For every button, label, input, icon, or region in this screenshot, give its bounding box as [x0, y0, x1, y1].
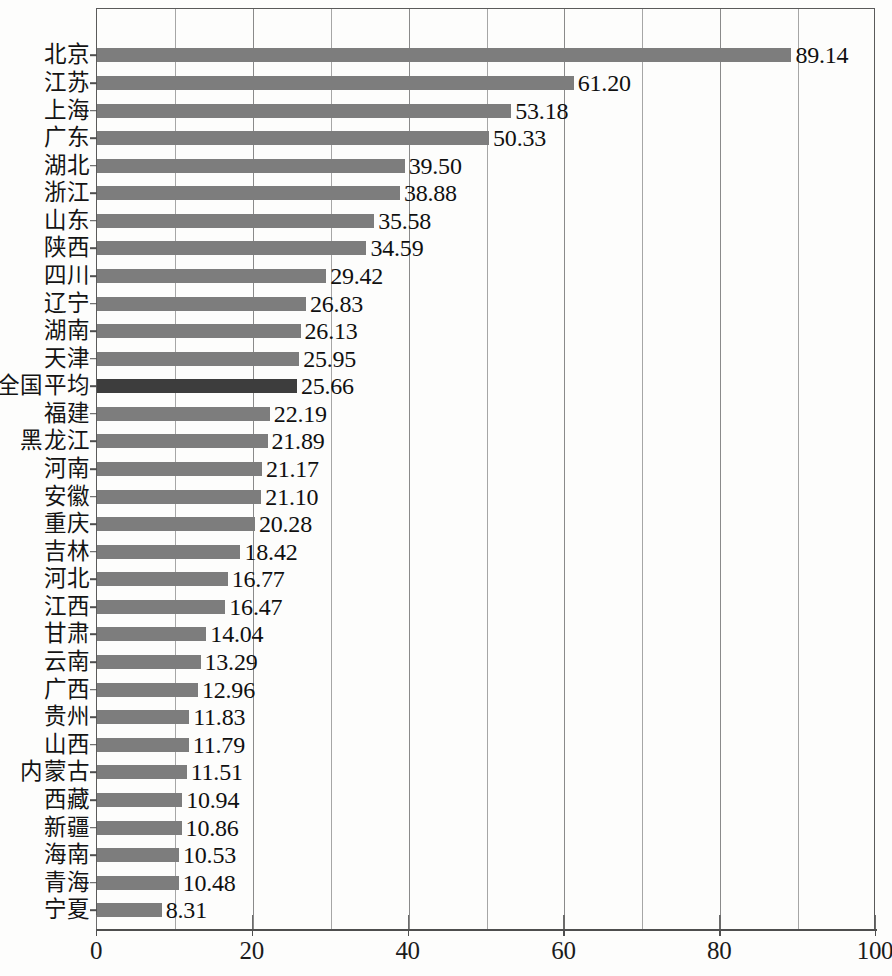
bar[interactable] — [97, 379, 297, 393]
bar[interactable] — [97, 186, 400, 200]
bar[interactable] — [97, 821, 182, 835]
category-label: 江西 — [44, 595, 90, 619]
bar[interactable] — [97, 545, 240, 559]
bar-row: 贵州11.83 — [0, 703, 892, 731]
bar[interactable] — [97, 572, 228, 586]
bar[interactable] — [97, 214, 374, 228]
bar-row: 海南10.53 — [0, 841, 892, 869]
category-tick — [90, 579, 97, 581]
bar-row: 黑龙江21.89 — [0, 428, 892, 456]
bar[interactable] — [97, 48, 791, 62]
bar[interactable] — [97, 269, 326, 283]
bar-row: 西藏10.94 — [0, 786, 892, 814]
category-label: 重庆 — [44, 512, 90, 536]
bar[interactable] — [97, 159, 405, 173]
bar-value-label: 12.96 — [202, 677, 255, 703]
x-tick-label: 40 — [395, 937, 419, 965]
bar[interactable] — [97, 655, 201, 669]
bar[interactable] — [97, 352, 299, 366]
bar[interactable] — [97, 462, 262, 476]
bar-value-label: 8.31 — [166, 897, 207, 923]
bar[interactable] — [97, 627, 206, 641]
category-tick — [90, 110, 97, 112]
category-label: 福建 — [44, 402, 90, 426]
bar-row: 天津25.95 — [0, 345, 892, 373]
category-tick — [90, 661, 97, 663]
category-tick — [90, 82, 97, 84]
category-tick — [90, 303, 97, 305]
category-tick — [90, 330, 97, 332]
bar[interactable] — [97, 131, 489, 145]
bar[interactable] — [97, 710, 189, 724]
bar-row: 山西11.79 — [0, 731, 892, 759]
bar-value-label: 35.58 — [378, 208, 431, 234]
bar-value-label: 21.17 — [266, 456, 319, 482]
bar[interactable] — [97, 903, 162, 917]
bar-value-label: 29.42 — [330, 263, 383, 289]
bar-rows: 北京89.14江苏61.20上海53.18广东50.33湖北39.50浙江38.… — [0, 0, 892, 929]
bar-row: 云南13.29 — [0, 648, 892, 676]
bar[interactable] — [97, 738, 189, 752]
category-tick — [90, 496, 97, 498]
bar[interactable] — [97, 876, 179, 890]
bar-row: 浙江38.88 — [0, 180, 892, 208]
category-label: 辽宁 — [44, 292, 90, 316]
category-tick — [90, 716, 97, 718]
category-label: 吉林 — [44, 540, 90, 564]
category-tick — [90, 441, 97, 443]
bar-row: 辽宁26.83 — [0, 290, 892, 318]
category-label: 江苏 — [44, 71, 90, 95]
bar[interactable] — [97, 765, 187, 779]
bar-row: 青海10.48 — [0, 869, 892, 897]
bar-value-label: 53.18 — [515, 98, 568, 124]
bar-row: 重庆20.28 — [0, 510, 892, 538]
bar-row: 陕西34.59 — [0, 235, 892, 263]
bar[interactable] — [97, 297, 306, 311]
bar-value-label: 89.14 — [795, 42, 848, 68]
bar-value-label: 11.51 — [191, 759, 243, 785]
category-tick — [90, 909, 97, 911]
bar[interactable] — [97, 517, 255, 531]
category-label: 云南 — [44, 650, 90, 674]
bar-value-label: 26.13 — [305, 318, 358, 344]
category-tick — [90, 358, 97, 360]
category-label: 四川 — [44, 264, 90, 288]
category-tick — [90, 220, 97, 222]
bar[interactable] — [97, 793, 182, 807]
bar[interactable] — [97, 434, 268, 448]
bar-value-label: 16.77 — [232, 566, 285, 592]
bar-row: 湖北39.50 — [0, 152, 892, 180]
bar-value-label: 13.29 — [205, 649, 258, 675]
category-tick — [90, 827, 97, 829]
x-tick-stem-80 — [719, 915, 720, 929]
bar-value-label: 34.59 — [370, 235, 423, 261]
bar-row: 四川29.42 — [0, 262, 892, 290]
category-tick — [90, 55, 97, 57]
bar-value-label: 16.47 — [229, 594, 282, 620]
category-tick — [90, 165, 97, 167]
bar-value-label: 50.33 — [493, 125, 546, 151]
category-tick — [90, 744, 97, 746]
bar[interactable] — [97, 490, 261, 504]
bar[interactable] — [97, 600, 225, 614]
x-tick-60 — [563, 929, 564, 936]
bar-value-label: 10.94 — [186, 787, 239, 813]
bar-value-label: 21.10 — [265, 484, 318, 510]
category-tick — [90, 413, 97, 415]
category-label: 山东 — [44, 209, 90, 233]
bar[interactable] — [97, 848, 179, 862]
bar-row: 全国平均25.66 — [0, 373, 892, 401]
bar[interactable] — [97, 104, 511, 118]
category-label: 北京 — [44, 43, 90, 67]
x-tick-label: 100 — [857, 937, 892, 965]
bar[interactable] — [97, 407, 270, 421]
bar[interactable] — [97, 683, 198, 697]
bar[interactable] — [97, 241, 366, 255]
bar-value-label: 25.66 — [301, 373, 354, 399]
bar[interactable] — [97, 324, 301, 338]
category-label: 广东 — [44, 126, 90, 150]
bar[interactable] — [97, 76, 574, 90]
x-tick-stem-100 — [875, 915, 876, 929]
category-label: 陕西 — [44, 236, 90, 260]
category-label: 新疆 — [44, 816, 90, 840]
